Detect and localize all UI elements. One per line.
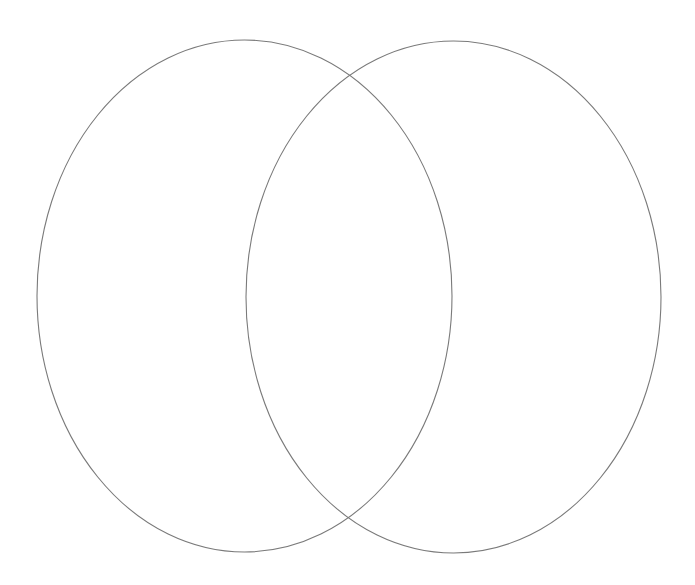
right-set-ellipse [246, 41, 661, 553]
left-set-ellipse [37, 40, 452, 552]
venn-diagram-canvas [0, 0, 695, 585]
venn-diagram [0, 0, 695, 585]
